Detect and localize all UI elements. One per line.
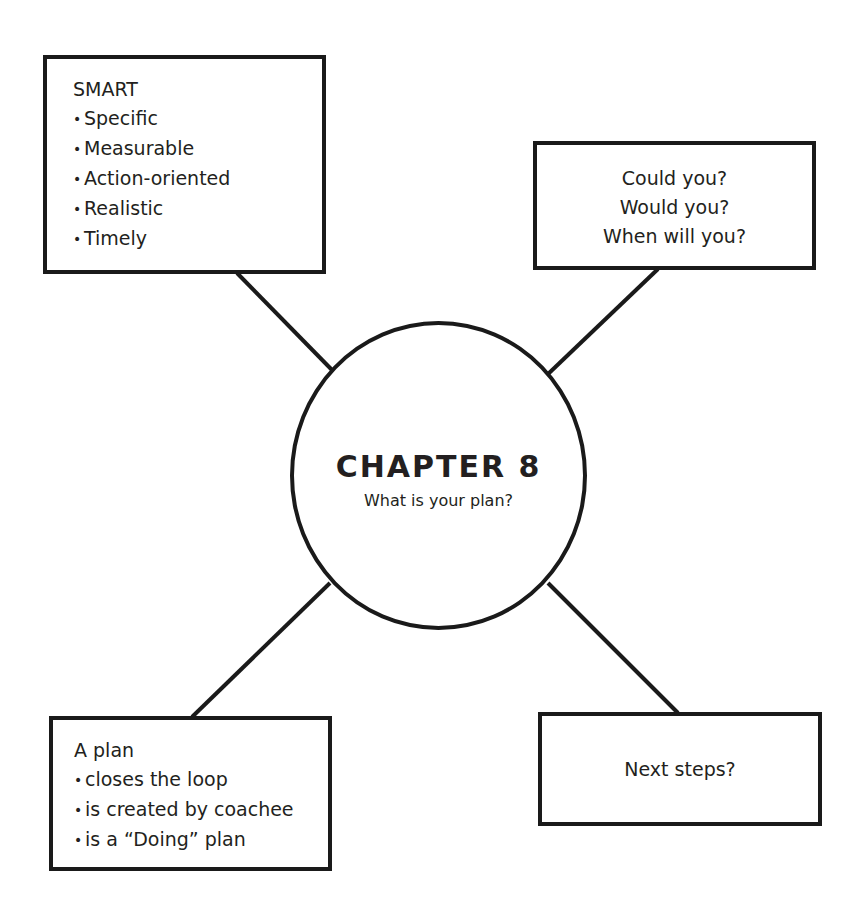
node-plan-traits: A plan •closes the loop •is created by c… xyxy=(49,716,332,871)
list-item: •Measurable xyxy=(73,134,322,164)
question-line: Would you? xyxy=(537,193,812,222)
hub-title: CHAPTER 8 xyxy=(294,449,583,484)
bullet-icon: • xyxy=(74,796,85,825)
list-item: •closes the loop xyxy=(74,765,328,795)
node-heading: A plan xyxy=(74,736,328,765)
list-item: •Timely xyxy=(73,224,322,254)
bullet-icon: • xyxy=(74,826,85,855)
connector-top-left xyxy=(237,273,333,371)
list-item: •Action-oriented xyxy=(73,164,322,194)
connector-bottom-right xyxy=(548,583,678,713)
bullet-icon: • xyxy=(74,766,85,795)
next-steps-text: Next steps? xyxy=(624,755,735,784)
node-commitment-questions: Could you? Would you? When will you? xyxy=(533,141,816,270)
hub-circle: CHAPTER 8 What is your plan? xyxy=(290,321,587,630)
question-line: Could you? xyxy=(537,164,812,193)
bullet-icon: • xyxy=(73,135,84,164)
question-line: When will you? xyxy=(537,222,812,251)
node-heading: SMART xyxy=(73,75,322,104)
bullet-icon: • xyxy=(73,195,84,224)
list-item: •is created by coachee xyxy=(74,795,328,825)
bullet-icon: • xyxy=(73,105,84,134)
connector-top-right xyxy=(547,269,658,375)
bullet-icon: • xyxy=(73,165,84,194)
node-smart-criteria: SMART •Specific •Measurable •Action-orie… xyxy=(43,55,326,274)
node-next-steps: Next steps? xyxy=(538,712,822,826)
list-item: •Realistic xyxy=(73,194,322,224)
hub-subtitle: What is your plan? xyxy=(294,491,583,510)
list-item: •is a “Doing” plan xyxy=(74,825,328,855)
connector-bottom-left xyxy=(192,583,330,717)
bullet-icon: • xyxy=(73,225,84,254)
list-item: •Specific xyxy=(73,104,322,134)
